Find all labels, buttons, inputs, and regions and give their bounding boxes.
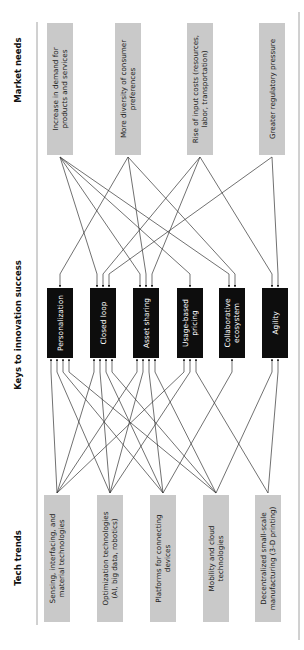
link-market-0-to-key-2: [60, 157, 140, 287]
tech-trend-box: Platforms for connectingdevices: [150, 495, 176, 622]
column-headers: Market needsKeys to innovation successTe…: [13, 37, 23, 586]
tech-trend-label-line: material technologies: [57, 519, 66, 597]
link-tech-0-to-key-0: [51, 359, 57, 493]
tech-trend-label-line: Platforms for connecting: [154, 514, 163, 602]
link-tech-3-to-key-0: [69, 359, 216, 493]
market-need-label-line: preferences: [128, 67, 137, 110]
tech-trend-label-line: (AI, big data, robotics): [110, 518, 119, 598]
link-market-0-to-key-4: [60, 157, 229, 287]
key-label-line: Collaborative: [223, 298, 232, 347]
market-need-box: More diversity of consumerpreferences: [115, 23, 141, 155]
link-market-0-to-key-1: [60, 157, 97, 287]
market-need-box: Increase in demand forproducts and servi…: [47, 23, 73, 155]
market-need-label-line: More diversity of consumer: [119, 40, 128, 138]
header-keys-to-innovation-line: Keys to innovation success: [13, 260, 23, 390]
key-label-line: Personalization: [56, 295, 65, 351]
key-box: Asset sharing: [133, 288, 159, 358]
innovation-diagram: Market needsKeys to innovation successTe…: [0, 0, 304, 650]
key-label: Agility: [271, 311, 280, 335]
key-label-line: Asset sharing: [142, 298, 151, 348]
tech-trend-label-line: Optimization technologies: [101, 511, 110, 605]
tech-trend-label-line: Sensing, interfacing, and: [48, 514, 57, 604]
market-need-label: Rise of input costs (resources,labor, tr…: [191, 35, 209, 143]
tech-trend-label-line: technologies: [216, 535, 225, 581]
link-tech-3-to-key-5: [216, 359, 272, 493]
link-tech-2-to-key-2: [149, 359, 163, 493]
header-keys-to-innovation: Keys to innovation success: [13, 260, 23, 390]
tech-trend-box: Decentralized small-scalemanufacturing (…: [255, 495, 281, 622]
tech-trend-box: Sensing, interfacing, andmaterial techno…: [44, 495, 70, 622]
link-tech-0-to-key-3: [57, 359, 184, 493]
key-label-line: Usage-based: [181, 299, 190, 347]
key-label-line: Agility: [271, 311, 280, 335]
market-need-label-line: products and services: [60, 49, 69, 128]
key-label-line: Closed loop: [99, 301, 108, 344]
tech-trend-label-line: manufacturing (3-D printing): [268, 506, 277, 610]
link-market-2-to-key-2: [152, 157, 200, 287]
tech-trend-box: Optimization technologies(AI, big data, …: [97, 495, 123, 622]
tech-trend-label: Decentralized small-scalemanufacturing (…: [259, 506, 277, 610]
market-need-label: Greater regulatory pressure: [268, 38, 277, 139]
market-need-label-line: Greater regulatory pressure: [268, 38, 277, 139]
key-label: Asset sharing: [142, 298, 151, 348]
link-tech-0-to-key-1: [57, 359, 94, 493]
link-market-1-to-key-2: [128, 157, 146, 287]
tech-trend-label: Sensing, interfacing, andmaterial techno…: [48, 514, 66, 604]
link-market-3-to-key-5: [272, 157, 278, 287]
key-label: Collaborativeecosystem: [223, 298, 241, 347]
header-tech-trends: Tech trends: [13, 530, 23, 586]
link-tech-4-to-key-3: [196, 359, 268, 493]
header-market-needs: Market needs: [13, 37, 23, 102]
tech-trend-box: Mobility and cloudtechnologies: [203, 495, 229, 622]
link-market-3-to-key-1: [109, 157, 272, 287]
link-market-2-to-key-5: [200, 157, 272, 287]
link-tech-4-to-key-5: [268, 359, 278, 493]
tech-trend-label-line: devices: [163, 545, 172, 573]
tech-trend-label-line: Decentralized small-scale: [259, 512, 268, 605]
header-market-needs-line: Market needs: [13, 37, 23, 102]
key-box: Personalization: [47, 288, 73, 358]
market-need-label-line: Rise of input costs (resources,: [191, 35, 200, 143]
key-box: Collaborativeecosystem: [219, 288, 245, 358]
link-market-0-to-key-3: [60, 157, 190, 287]
market-need-label-line: Increase in demand for: [51, 47, 60, 130]
key-label: Closed loop: [99, 301, 108, 344]
header-tech-trends-line: Tech trends: [13, 530, 23, 586]
link-tech-1-to-key-0: [57, 359, 110, 493]
tech-trend-label-line: Mobility and cloud: [207, 526, 216, 592]
tech-trend-label: Optimization technologies(AI, big data, …: [101, 511, 119, 605]
market-need-box: Greater regulatory pressure: [259, 23, 285, 155]
key-label-line: pricing: [190, 310, 199, 336]
key-box: Agility: [262, 288, 288, 358]
key-label: Personalization: [56, 295, 65, 351]
key-label-line: ecosystem: [232, 303, 241, 343]
boxes: Increase in demand forproducts and servi…: [44, 23, 288, 622]
market-need-box: Rise of input costs (resources,labor, tr…: [187, 23, 213, 155]
link-tech-2-to-key-4: [163, 359, 232, 493]
market-need-label-line: labor, transportation): [200, 50, 209, 127]
market-need-label: Increase in demand forproducts and servi…: [51, 47, 69, 130]
link-tech-1-to-key-2: [110, 359, 143, 493]
key-box: Usage-basedpricing: [177, 288, 203, 358]
key-box: Closed loop: [90, 288, 116, 358]
